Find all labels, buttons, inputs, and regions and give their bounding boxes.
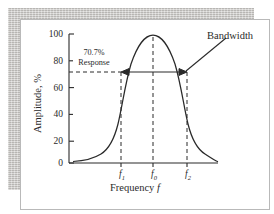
half-power-annotation-word: Response [69, 59, 119, 67]
half-power-annotation-pct: 70.7% [69, 49, 119, 57]
f1-subscript: 1 [122, 174, 125, 181]
y-tick-label-20: 20 [37, 137, 63, 147]
bandwidth-arrow-head-right [179, 69, 187, 76]
y-tick-label-80: 80 [37, 57, 63, 67]
x-axis-title-variable: f [157, 182, 160, 193]
x-tick-label-f0: f0 [146, 170, 162, 181]
x-axis-title-prefix: Frequency [110, 182, 157, 193]
bandwidth-callout-label: Bandwidth [207, 31, 253, 42]
bandwidth-leader-line [186, 38, 226, 71]
figure-card: 100 80 60 40 20 0 Amplitude, % 70.7% Res… [20, 19, 270, 210]
figure-root: 100 80 60 40 20 0 Amplitude, % 70.7% Res… [0, 0, 274, 214]
x-tick-label-f2: f2 [180, 170, 196, 181]
f0-subscript: 0 [154, 174, 157, 181]
x-axis-title: Frequency fFrequency f [110, 183, 160, 194]
y-axis-title: Amplitude, % [33, 74, 44, 133]
x-tick-label-f1: f1 [114, 170, 130, 181]
f2-subscript: 2 [188, 174, 191, 181]
y-tick-label-0: 0 [37, 159, 63, 169]
y-tick-label-100: 100 [37, 30, 63, 40]
bandwidth-arrow-head-left [121, 69, 129, 76]
x-axis-ticks [121, 163, 187, 167]
